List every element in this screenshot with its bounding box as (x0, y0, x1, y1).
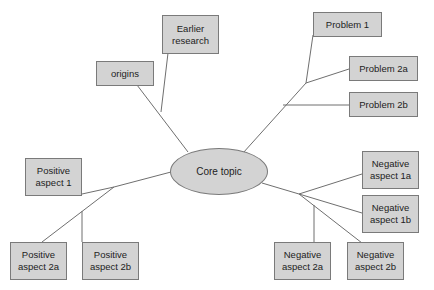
node-problem-2a[interactable]: Problem 2a (349, 56, 418, 81)
node-label: Problem 2a (359, 63, 408, 75)
node-positive-aspect-1[interactable]: Positive aspect 1 (25, 158, 82, 196)
link-negative-1a (299, 174, 362, 194)
link-negative-2b (299, 194, 362, 243)
node-problem-2b[interactable]: Problem 2b (349, 92, 418, 117)
core-topic-node[interactable]: Core topic (170, 148, 268, 195)
node-origins[interactable]: origins (96, 61, 154, 86)
link-earlier-research (161, 53, 168, 112)
node-label: Problem 1 (326, 19, 369, 31)
link-core-negative (262, 183, 299, 194)
mind-map-diagram: Core topic origins Earlier research Prob… (0, 0, 434, 290)
node-label: Negative aspect 2a (282, 249, 323, 273)
node-earlier-research[interactable]: Earlier research (162, 15, 219, 54)
node-label: Negative aspect 1a (370, 158, 411, 182)
link-core-problems (243, 83, 306, 153)
node-problem-1[interactable]: Problem 1 (313, 12, 382, 37)
node-label: Problem 2b (359, 99, 408, 111)
node-label: origins (111, 68, 139, 80)
node-label: Positive aspect 1 (36, 165, 72, 189)
node-label: Positive aspect 2b (90, 249, 131, 273)
link-core-positive (114, 172, 171, 187)
node-label: Negative aspect 2b (355, 249, 396, 273)
link-negative-1b (299, 194, 362, 213)
node-label: Negative aspect 1b (370, 202, 411, 226)
node-negative-aspect-2a[interactable]: Negative aspect 2a (274, 242, 331, 280)
node-label: Positive aspect 2a (18, 249, 59, 273)
link-core-origins (137, 85, 188, 152)
node-negative-aspect-1b[interactable]: Negative aspect 1b (362, 195, 419, 233)
node-negative-aspect-2b[interactable]: Negative aspect 2b (347, 242, 404, 280)
node-label: Earlier research (172, 23, 209, 47)
node-negative-aspect-1a[interactable]: Negative aspect 1a (362, 151, 419, 189)
link-problem-1 (306, 35, 313, 83)
core-topic-label: Core topic (196, 166, 242, 177)
link-problem-2a (306, 69, 349, 83)
node-positive-aspect-2b[interactable]: Positive aspect 2b (82, 242, 139, 280)
node-positive-aspect-2a[interactable]: Positive aspect 2a (10, 242, 67, 280)
